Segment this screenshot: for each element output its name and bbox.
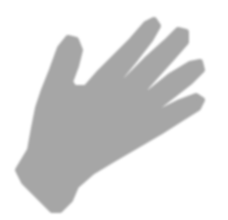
image-canvas [0, 0, 228, 220]
hand-shape [18, 20, 202, 210]
hand-silhouette-icon [0, 0, 228, 220]
